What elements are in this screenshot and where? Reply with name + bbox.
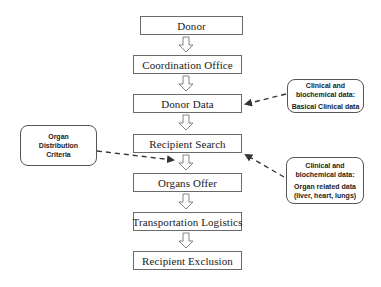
step-label: Coordination Office xyxy=(142,59,233,71)
callout-line: Distribution xyxy=(39,141,78,150)
step-transportation-logistics: Transportation Logistics xyxy=(133,212,242,231)
down-arrow-icon xyxy=(179,233,193,248)
step-coordination-office: Coordination Office xyxy=(133,55,242,74)
step-recipient-search: Recipient Search xyxy=(133,134,242,153)
dashed-arrow-basic-clinical xyxy=(246,94,286,104)
down-arrow-icon xyxy=(179,194,193,209)
callout-line: Organ xyxy=(48,132,69,141)
step-label: Organs Offer xyxy=(158,177,217,189)
callout-organ-distribution-criteria: Organ Distribution Criteria xyxy=(20,125,97,166)
flowchart-diagram: Donor Coordination Office Donor Data Rec… xyxy=(0,0,381,287)
step-recipient-exclusion: Recipient Exclusion xyxy=(133,251,242,270)
callout-line: Basical Clinical data xyxy=(292,102,360,111)
callout-line: (liver, heart, lungs) xyxy=(294,191,356,200)
dashed-arrow-organ-related xyxy=(246,155,284,177)
step-label: Donor xyxy=(177,20,206,32)
step-organs-offer: Organs Offer xyxy=(133,173,242,192)
callout-basic-clinical-data: Clinical and biochemical data: Basical C… xyxy=(287,79,364,113)
callout-line: biochemical data: xyxy=(296,90,355,99)
step-label: Recipient Exclusion xyxy=(142,255,233,267)
callout-line: biochemical data: xyxy=(295,170,354,179)
down-arrow-icon xyxy=(179,37,193,52)
step-donor-data: Donor Data xyxy=(133,94,242,113)
callout-line: Clinical and xyxy=(306,81,345,90)
down-arrow-icon xyxy=(179,115,193,130)
step-label: Donor Data xyxy=(161,98,214,110)
step-donor: Donor xyxy=(140,16,243,35)
callout-organ-related-data: Clinical and biochemical data: Organ rel… xyxy=(286,157,364,204)
down-arrow-icon xyxy=(179,76,193,91)
callout-line: Organ related data xyxy=(294,182,356,191)
callout-line: Criteria xyxy=(46,150,71,159)
step-label: Transportation Logistics xyxy=(133,216,243,228)
step-label: Recipient Search xyxy=(149,138,225,150)
down-arrow-icon xyxy=(179,155,193,170)
callout-line: Clinical and xyxy=(305,161,344,170)
